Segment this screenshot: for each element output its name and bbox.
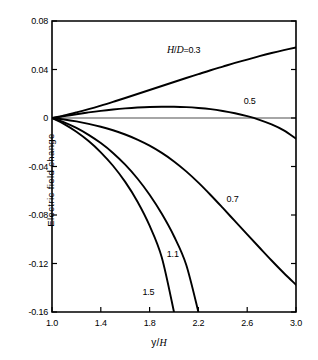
curve-label-value-0-3: 0.3	[189, 45, 201, 55]
curve-label-1-1: 1.1	[167, 249, 179, 259]
y-tick-label-6: -0.16	[28, 307, 48, 317]
y-tick-label-4: -0.08	[28, 210, 48, 220]
x-tick-label-2: 1.8	[144, 318, 156, 328]
curve-0-7	[52, 118, 296, 285]
x-tick-label-0: 1.0	[46, 318, 58, 328]
curve-label-0-5: 0.5	[244, 96, 256, 106]
axis-frame	[52, 21, 296, 312]
x-tick-label-3: 2.2	[192, 318, 204, 328]
curve-label-hd-0-3: H/D=0.3	[167, 44, 200, 55]
x-axis-title-text: y/H	[151, 337, 167, 348]
x-axis-title: y/H	[0, 337, 318, 348]
curves-group	[52, 47, 296, 312]
chart-figure: Electric field change y/H 0.08 0.04 0 -0…	[0, 0, 318, 360]
curve-label-0-7: 0.7	[227, 194, 239, 204]
x-tick-label-4: 2.6	[241, 318, 253, 328]
x-tick-label-5: 3.0	[290, 318, 302, 328]
y-tick-label-0: 0.08	[31, 16, 48, 26]
curve-label-1-5: 1.5	[142, 287, 154, 297]
y-tick-label-2: 0	[43, 113, 48, 123]
curve-1-5	[52, 118, 174, 312]
curve-1-1	[52, 118, 198, 312]
x-tick-label-1: 1.4	[95, 318, 107, 328]
y-tick-label-5: -0.12	[28, 259, 48, 269]
y-tick-label-3: -0.04	[28, 162, 48, 172]
y-tick-label-1: 0.04	[31, 65, 48, 75]
